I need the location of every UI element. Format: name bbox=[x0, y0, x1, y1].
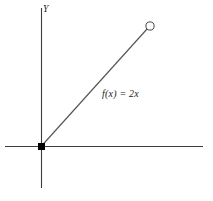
function-graph-figure: Y f(x) = 2x bbox=[0, 0, 213, 201]
origin-closed-point bbox=[38, 143, 45, 150]
function-equation-label: f(x) = 2x bbox=[102, 89, 139, 99]
open-endpoint-circle bbox=[146, 22, 154, 30]
y-axis-label: Y bbox=[43, 5, 48, 15]
graph-canvas bbox=[0, 0, 213, 201]
